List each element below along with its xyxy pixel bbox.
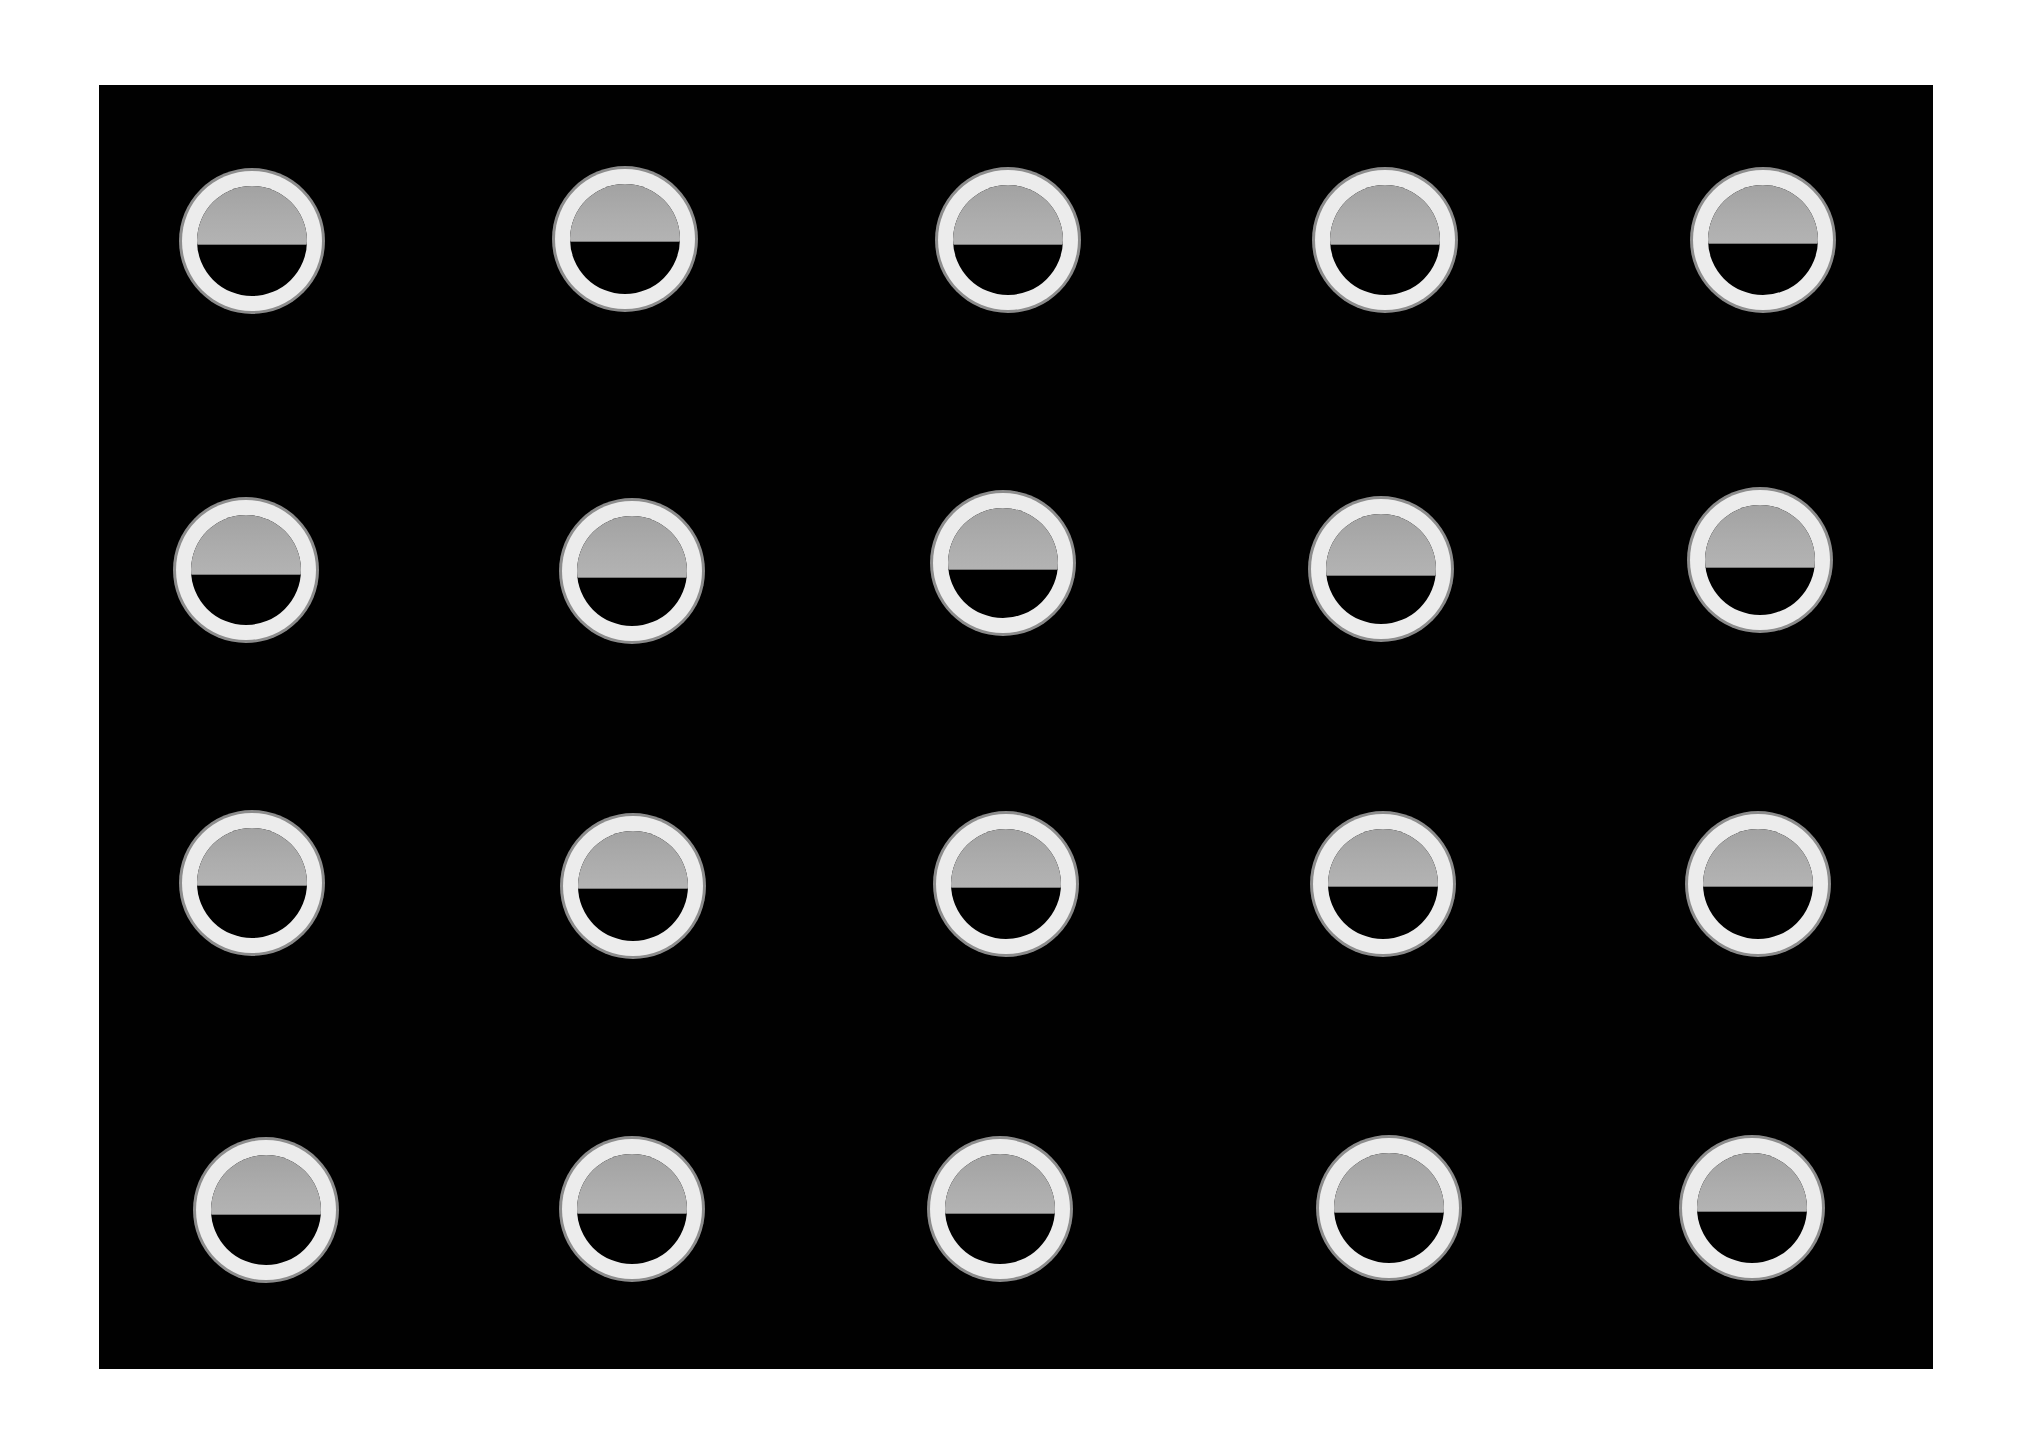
well-ring	[1693, 170, 1833, 310]
well-ring	[562, 1139, 702, 1279]
well-ring	[1688, 814, 1828, 954]
well-fill-level	[1703, 829, 1813, 887]
well-interior	[197, 828, 307, 938]
image-canvas	[0, 0, 2023, 1435]
well-ring	[176, 500, 316, 640]
well-disc-r3-c2	[560, 813, 706, 959]
well-interior	[1334, 1153, 1444, 1263]
well-disc-r4-c3	[927, 1136, 1073, 1282]
well-fill-level	[951, 829, 1061, 888]
well-interior	[1705, 505, 1815, 615]
well-fill-level	[570, 184, 680, 242]
well-fill-level	[945, 1154, 1055, 1214]
well-fill-level	[578, 831, 688, 889]
well-disc-r2-c5	[1687, 487, 1833, 633]
well-fill-level	[1330, 185, 1440, 245]
well-interior	[948, 508, 1058, 618]
well-disc-r1-c3	[935, 167, 1081, 313]
well-disc-r2-c3	[930, 490, 1076, 636]
well-interior	[578, 831, 688, 941]
well-ring	[1315, 170, 1455, 310]
well-interior	[1326, 514, 1436, 624]
well-disc-r4-c4	[1316, 1135, 1462, 1281]
well-interior	[577, 516, 687, 626]
well-ring	[1690, 490, 1830, 630]
well-fill-level	[1334, 1153, 1444, 1213]
well-ring	[182, 171, 322, 311]
well-fill-level	[953, 185, 1063, 245]
well-ring	[938, 170, 1078, 310]
well-interior	[1330, 185, 1440, 295]
well-fill-level	[1708, 185, 1818, 244]
well-disc-r3-c5	[1685, 811, 1831, 957]
well-ring	[562, 501, 702, 641]
well-ring	[563, 816, 703, 956]
well-fill-level	[197, 186, 307, 245]
well-ring	[555, 169, 695, 309]
well-interior	[1697, 1153, 1807, 1263]
well-fill-level	[948, 508, 1058, 570]
well-ring	[933, 493, 1073, 633]
well-fill-level	[197, 828, 307, 886]
well-fill-level	[1328, 829, 1438, 887]
well-interior	[951, 829, 1061, 939]
well-interior	[570, 184, 680, 294]
well-interior	[211, 1155, 321, 1265]
well-disc-r4-c1	[193, 1137, 339, 1283]
well-fill-level	[1326, 514, 1436, 576]
well-disc-r4-c2	[559, 1136, 705, 1282]
well-interior	[191, 515, 301, 625]
well-interior	[953, 185, 1063, 295]
well-disc-r3-c1	[179, 810, 325, 956]
well-interior	[197, 186, 307, 296]
well-ring	[936, 814, 1076, 954]
well-disc-r1-c5	[1690, 167, 1836, 313]
well-disc-r3-c3	[933, 811, 1079, 957]
well-disc-r1-c4	[1312, 167, 1458, 313]
well-interior	[1328, 829, 1438, 939]
well-ring	[1682, 1138, 1822, 1278]
well-disc-r2-c1	[173, 497, 319, 643]
well-ring	[930, 1139, 1070, 1279]
well-disc-r3-c4	[1310, 811, 1456, 957]
well-disc-r1-c2	[552, 166, 698, 312]
well-ring	[1313, 814, 1453, 954]
well-ring	[1319, 1138, 1459, 1278]
well-interior	[1708, 185, 1818, 295]
well-ring	[196, 1140, 336, 1280]
well-fill-level	[1697, 1153, 1807, 1212]
well-disc-r1-c1	[179, 168, 325, 314]
well-ring	[182, 813, 322, 953]
well-fill-level	[1705, 505, 1815, 568]
well-disc-r2-c2	[559, 498, 705, 644]
well-interior	[1703, 829, 1813, 939]
well-ring	[1311, 499, 1451, 639]
well-fill-level	[577, 516, 687, 578]
well-disc-r4-c5	[1679, 1135, 1825, 1281]
well-fill-level	[191, 515, 301, 575]
well-fill-level	[577, 1154, 687, 1214]
well-fill-level	[211, 1155, 321, 1215]
well-interior	[945, 1154, 1055, 1264]
well-interior	[577, 1154, 687, 1264]
well-disc-r2-c4	[1308, 496, 1454, 642]
